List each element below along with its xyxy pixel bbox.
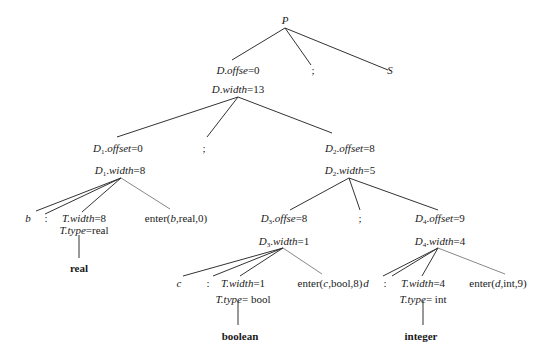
node-T1-width: T.width=8 xyxy=(62,212,107,224)
edge-D-D2 xyxy=(238,97,332,133)
edge-D3-enter xyxy=(283,248,322,274)
edge-D-semi xyxy=(207,97,238,137)
node-d: d xyxy=(363,277,369,289)
node-colon-3: : xyxy=(383,277,386,289)
node-real: real xyxy=(70,262,88,274)
node-D3-offset: D3.offse=8 xyxy=(260,212,308,226)
node-T2-width: T.width=1 xyxy=(221,277,265,289)
node-colon-1: : xyxy=(44,212,47,224)
edge-D4-colon xyxy=(392,248,438,276)
edge-D3-c xyxy=(183,248,283,276)
node-semicolon-2: ; xyxy=(202,142,205,154)
node-P: P xyxy=(281,14,289,26)
node-enter-3: enter(d,int,9) xyxy=(469,277,527,290)
node-T3-type: T.type= int xyxy=(400,293,447,305)
edge-D4-enter xyxy=(438,248,505,274)
edge-P-D xyxy=(232,28,285,60)
node-S: S xyxy=(387,64,393,76)
edge-D3-T xyxy=(240,248,283,276)
node-integer: integer xyxy=(405,330,438,342)
node-D-offset: D.offse=0 xyxy=(215,64,260,76)
edge-D1-T xyxy=(82,178,121,212)
node-D1-width: D1.width=8 xyxy=(94,164,146,178)
node-D2: D2.offset=8 D2.width=5 xyxy=(324,142,376,178)
edge-D1-enter xyxy=(121,178,170,209)
edge-P-S xyxy=(285,28,388,70)
node-T2-type: T.type= bool xyxy=(216,293,271,305)
node-c: c xyxy=(177,277,182,289)
edge-D-D1 xyxy=(117,97,238,137)
edge-D1-b xyxy=(36,178,121,211)
node-D-width: D.width=13 xyxy=(211,83,265,95)
node-D1: D1.offset=0 D1.width=8 xyxy=(92,142,146,178)
node-T3: T.width=4 T.type= int xyxy=(400,277,447,305)
node-semicolon-1: ; xyxy=(311,64,314,76)
node-D3: D3.offse=8 D3.width=1 xyxy=(258,212,309,249)
edge-D2-semi xyxy=(349,178,360,210)
node-D1-offset: D1.offset=0 xyxy=(92,142,143,156)
node-boolean: boolean xyxy=(222,330,259,342)
node-T2: T.width=1 T.type= bool xyxy=(216,277,271,305)
node-D-root: D.offse=0 D.width=13 xyxy=(211,64,265,95)
edge-D2-D4 xyxy=(349,178,438,210)
node-D2-width: D2.width=5 xyxy=(324,164,376,178)
node-D4-width: D4.width=4 xyxy=(414,235,466,249)
node-b: b xyxy=(25,212,31,224)
node-semicolon-3: ; xyxy=(358,212,361,224)
node-T3-width: T.width=4 xyxy=(401,277,446,289)
node-D4-offset: D4.offset=9 xyxy=(414,212,465,226)
edge-D1-colon xyxy=(45,178,121,214)
node-D3-width: D3.width=1 xyxy=(258,235,309,249)
node-colon-2: : xyxy=(206,277,209,289)
node-D2-offset: D2.offset=8 xyxy=(324,142,375,156)
node-D4: D4.offset=9 D4.width=4 xyxy=(414,212,466,249)
node-T1-type: T.type=real xyxy=(59,224,108,236)
edge-D2-D3 xyxy=(290,178,349,210)
annotated-parse-tree: P D.offse=0 D.width=13 ; S D1.offset=0 D… xyxy=(0,0,539,362)
edge-D3-colon xyxy=(213,248,283,276)
node-enter-1: enter(b,real,0) xyxy=(145,212,208,225)
node-enter-2: enter(c,bool,8) xyxy=(298,277,363,290)
node-T1: T.width=8 T.type=real xyxy=(59,212,108,236)
